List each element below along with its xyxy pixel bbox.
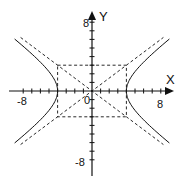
x-axis-arrow-icon bbox=[165, 87, 174, 95]
y-axis-arrow-icon bbox=[88, 11, 96, 20]
y-axis-label: Y bbox=[99, 10, 108, 23]
y-max-tick-label: 8 bbox=[83, 18, 89, 29]
y-min-tick-label: -8 bbox=[75, 157, 85, 168]
x-axis-label: X bbox=[166, 73, 175, 86]
origin-label: 0 bbox=[84, 95, 90, 106]
hyperbola-plot bbox=[0, 0, 183, 182]
x-min-tick-label: -8 bbox=[17, 96, 27, 107]
x-max-tick-label: 8 bbox=[157, 99, 163, 110]
